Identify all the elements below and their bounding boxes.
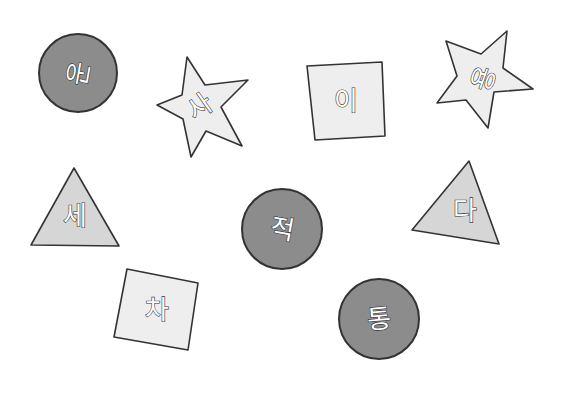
star-yong[interactable]: 용	[437, 31, 533, 128]
syllable-tong: 통	[366, 303, 393, 335]
circle-gong[interactable]: 공	[39, 34, 117, 112]
square-i[interactable]: 이	[307, 62, 385, 140]
triangle-se[interactable]: 세	[31, 168, 119, 246]
triangle-da[interactable]: 다	[412, 161, 499, 244]
circle-jeok[interactable]: 적	[242, 189, 322, 269]
syllable-jeok: 적	[268, 212, 297, 246]
circle-tong[interactable]: 통	[339, 279, 419, 359]
syllable-da: 다	[453, 196, 477, 226]
syllable-se: 세	[63, 201, 87, 231]
syllable-cha: 차	[145, 295, 169, 325]
star-sa[interactable]: 사	[157, 57, 248, 157]
syllable-i: 이	[334, 86, 358, 116]
square-cha[interactable]: 차	[114, 269, 198, 350]
shapes-canvas: 공 사 이 용 세 적 다 차 통	[0, 0, 566, 410]
syllable-gong: 공	[61, 59, 95, 88]
